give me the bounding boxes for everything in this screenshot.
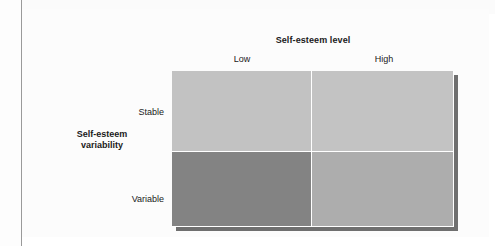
column-label-high: High [314,54,454,64]
cell-stable-high [312,71,454,152]
column-label-low: Low [172,54,312,64]
matrix-grid [172,71,454,227]
column-axis-title: Self-esteem level [172,35,454,45]
row-axis-title-line1: Self-esteem [52,129,152,140]
row-label-variable: Variable [92,194,164,204]
figure-card: Self-esteem level Low High Self-esteem v… [22,9,489,237]
cell-variable-low [172,152,312,227]
figure-page: Self-esteem level Low High Self-esteem v… [0,0,495,246]
page-left-tint [0,0,21,246]
row-axis-title: Self-esteem variability [52,129,152,151]
row-axis-title-line2: variability [52,140,152,151]
cell-stable-low [172,71,312,152]
cell-variable-high [312,152,454,227]
row-label-stable: Stable [92,107,164,117]
